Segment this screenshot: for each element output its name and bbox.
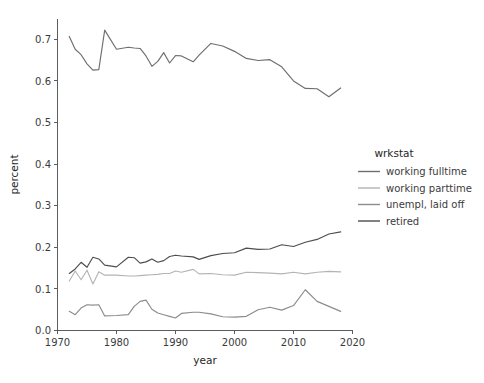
x-tick-label: 2010 [281,337,306,348]
x-tick-label: 2000 [222,337,247,348]
series-line-working-parttime [69,269,340,284]
y-tick-label: 0.4 [35,159,51,170]
x-tick-label: 1980 [104,337,129,348]
legend-label: retired [386,216,419,227]
x-axis-title: year [193,354,217,366]
y-tick-label: 0.5 [35,117,51,128]
y-tick-label: 0.3 [35,200,51,211]
series-line-retired [69,232,340,274]
y-tick-label: 0.1 [35,284,51,295]
x-tick-label: 1970 [45,337,70,348]
chart-figure: 0.00.10.20.30.40.50.60.71970198019902000… [0,0,484,383]
series-line-working-fulltime [69,30,340,97]
y-tick-label: 0.2 [35,242,51,253]
legend-title: wrkstat [374,147,413,159]
legend-label: working parttime [386,183,472,194]
legend-label: working fulltime [386,166,467,177]
x-tick-label: 1990 [163,337,188,348]
x-axis-ticks: 197019801990200020102020 [45,331,365,348]
series-line-unempl-laid-off [69,290,340,318]
y-tick-label: 0.7 [35,34,51,45]
legend: wrkstatworking fulltimeworking parttimeu… [358,147,472,227]
y-tick-label: 0.6 [35,76,51,87]
data-series-group [69,30,340,318]
x-tick-label: 2020 [340,337,365,348]
y-tick-label: 0.0 [35,325,51,336]
axes-spines [58,19,353,331]
y-axis-ticks: 0.00.10.20.30.40.50.60.7 [35,34,57,336]
line-chart-canvas: 0.00.10.20.30.40.50.60.71970198019902000… [0,0,484,383]
y-axis-title: percent [8,154,20,194]
legend-label: unempl, laid off [386,199,465,210]
